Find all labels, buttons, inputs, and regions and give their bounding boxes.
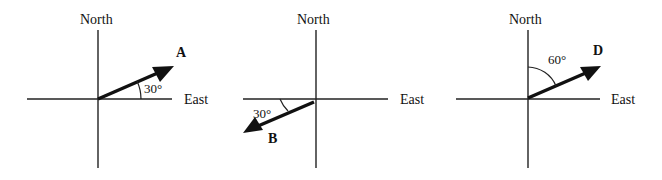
angle-label: 60° <box>548 52 566 67</box>
panel-vector-b: North East B 30° <box>243 12 424 168</box>
vector-label: D <box>593 43 603 58</box>
vector-diagram: North East A 30° North East B 30° North … <box>0 0 662 180</box>
east-label: East <box>611 92 635 107</box>
angle-arc <box>528 67 556 86</box>
north-label: North <box>509 12 542 27</box>
angle-label: 30° <box>253 106 271 121</box>
vector-label: B <box>268 131 277 146</box>
vector-d-shaft <box>528 72 588 98</box>
panel-vector-a: North East A 30° <box>27 12 208 168</box>
north-label: North <box>80 12 113 27</box>
angle-label: 30° <box>144 81 162 96</box>
east-label: East <box>184 92 208 107</box>
north-label: North <box>297 12 330 27</box>
panel-vector-d: North East D 60° <box>456 12 635 168</box>
east-label: East <box>400 92 424 107</box>
vector-label: A <box>176 45 187 60</box>
angle-arc <box>280 99 288 111</box>
angle-arc <box>137 81 141 99</box>
